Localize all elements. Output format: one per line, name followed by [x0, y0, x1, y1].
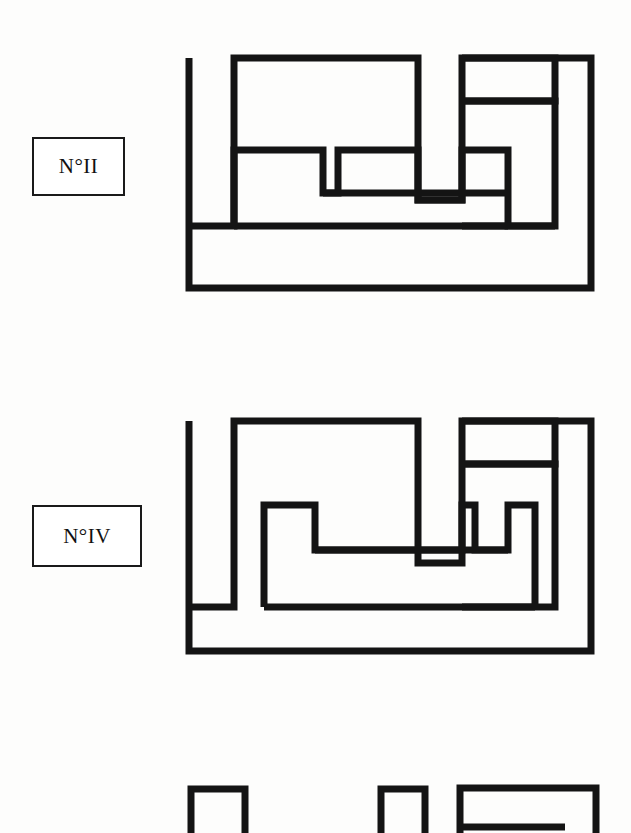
figure-diagram-4 [175, 403, 605, 668]
figure-label-box-2: N°II [32, 137, 125, 196]
figure-diagram-cropped [175, 775, 615, 833]
right-hook-piece [462, 421, 555, 464]
outer-bracket-piece [189, 421, 591, 651]
figure-diagram-2 [175, 40, 605, 305]
cropped-piece-middle [381, 789, 425, 833]
right-hook-piece [462, 58, 555, 101]
cropped-piece-left [191, 789, 245, 833]
figure-label-box-4: N°IV [32, 505, 142, 567]
outer-bracket-piece [189, 58, 591, 288]
plate-page: N°II N°IV [0, 0, 631, 833]
middle-bar-piece [234, 150, 555, 226]
middle-bar-piece [264, 505, 535, 607]
figure-label-text-2: N°II [59, 156, 99, 177]
figure-label-text-4: N°IV [63, 526, 111, 547]
